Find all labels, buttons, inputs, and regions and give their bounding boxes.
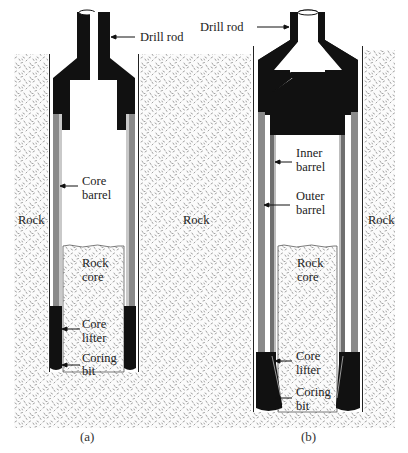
label-inner-barrel-1: Inner xyxy=(296,146,323,160)
outer-barrel-right xyxy=(351,80,358,352)
label-coring-bit-a-2: bit xyxy=(82,364,96,378)
label-outer-barrel-1: Outer xyxy=(296,189,325,203)
caption-b: (b) xyxy=(301,429,316,444)
label-core-lifter-b-1: Core xyxy=(296,349,321,363)
label-rock-right: Rock xyxy=(368,213,395,227)
label-rock-left: Rock xyxy=(18,213,45,227)
label-rock-core-a-2: core xyxy=(82,270,104,284)
coring-bit-right xyxy=(124,306,136,370)
label-core-lifter-b-2: lifter xyxy=(296,363,321,377)
label-rock-middle: Rock xyxy=(183,213,210,227)
label-rock-core-b-1: Rock xyxy=(297,256,324,270)
label-core-barrel-2: barrel xyxy=(82,188,112,202)
outer-barrel-left xyxy=(258,80,265,352)
label-rock-core-a-1: Rock xyxy=(82,256,109,270)
inner-barrel-left xyxy=(270,112,274,352)
label-drill-rod-a: Drill rod xyxy=(140,30,184,44)
inner-barrel-right xyxy=(341,112,345,352)
core-drilling-diagram: Drill rod Rock Core barrel Rock core Cor… xyxy=(0,0,408,453)
label-coring-bit-b-1: Coring xyxy=(296,385,331,399)
coring-bit-left xyxy=(50,306,62,370)
core-barrel-left xyxy=(53,114,59,306)
label-core-barrel-1: Core xyxy=(82,174,107,188)
label-inner-barrel-2: barrel xyxy=(296,160,326,174)
label-drill-rod-b: Drill rod xyxy=(200,20,244,34)
label-rock-core-b-2: core xyxy=(297,270,319,284)
caption-a: (a) xyxy=(80,429,94,444)
label-core-lifter-a-1: Core xyxy=(82,317,107,331)
diagram-svg: Drill rod Rock Core barrel Rock core Cor… xyxy=(0,0,408,453)
label-outer-barrel-2: barrel xyxy=(296,203,326,217)
label-coring-bit-b-2: bit xyxy=(296,399,310,413)
core-barrel-right xyxy=(129,114,135,306)
label-core-lifter-a-2: lifter xyxy=(82,331,107,345)
label-coring-bit-a-1: Coring xyxy=(82,351,117,365)
